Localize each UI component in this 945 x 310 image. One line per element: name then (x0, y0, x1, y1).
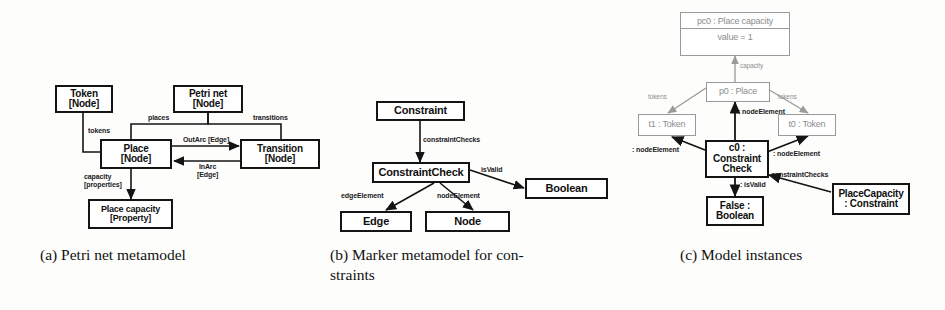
box-boolean[interactable]: Boolean (525, 178, 608, 199)
panel-petri-net-metamodel: Token [Node] Petri net [Node] Place [Nod… (0, 0, 330, 310)
caption-panel-c: (c) Model instances (680, 245, 940, 265)
caption-panel-a: (a) Petri net metamodel (40, 245, 330, 265)
edge-label-constraint-checks-c: : constraintChecks (767, 171, 828, 179)
box-p0-place-label: p0 : Place (719, 87, 757, 96)
box-t0-token[interactable]: t0 : Token (778, 114, 836, 136)
edge-label-transitions: transitions (253, 114, 288, 122)
edge-label-node-element-center: : nodeElement (738, 108, 785, 116)
caption-panel-b-line2: straints (330, 266, 375, 283)
edge-label-inarc-line1: InArc (199, 163, 216, 170)
box-token-line2: [Node] (69, 99, 99, 110)
edge-label-inarc: InArc [Edge] (197, 163, 218, 179)
box-constraint[interactable]: Constraint (376, 101, 465, 121)
box-pc0-place-capacity[interactable]: pc0 : Place capacity value = 1 (680, 12, 790, 56)
box-node-label: Node (454, 216, 481, 228)
edge-label-outarc: OutArc [Edge] (183, 136, 229, 144)
box-place-line2: [Node] (121, 154, 151, 165)
box-transition-line2: [Node] (265, 154, 295, 165)
box-boolean-label: Boolean (546, 183, 588, 195)
box-constraint-check-label: ConstraintCheck (378, 167, 463, 179)
edge-label-tokens: tokens (88, 127, 110, 135)
box-t1-token[interactable]: t1 : Token (638, 114, 696, 136)
box-pc0-value: value = 1 (681, 28, 789, 44)
edge-label-capacity-line2: [properties] (84, 181, 122, 188)
box-false-boolean[interactable]: False : Boolean (706, 196, 764, 226)
caption-panel-b-line1: (b) Marker metamodel for con- (330, 246, 524, 263)
edge-label-node-element-right: : nodeElement (773, 150, 820, 158)
box-petri-net-line2: [Node] (193, 99, 223, 110)
box-p0-place[interactable]: p0 : Place (706, 82, 770, 102)
box-place-capacity[interactable]: Place capacity [Property] (88, 199, 173, 229)
panel-marker-metamodel: Constraint ConstraintCheck Boolean Edge … (330, 0, 630, 310)
edge-label-capacity-c: capacity (740, 62, 763, 69)
edge-label-node-element: nodeElement (437, 192, 480, 200)
panel-model-instances: pc0 : Place capacity value = 1 p0 : Plac… (630, 0, 945, 310)
box-place-capacity-constraint-line2: : Constraint (844, 199, 898, 210)
box-place[interactable]: Place [Node] (100, 139, 172, 169)
edge-label-node-element-left: : nodeElement (632, 146, 679, 154)
box-pc0-title: pc0 : Place capacity (681, 13, 789, 28)
box-t0-token-label: t0 : Token (789, 120, 826, 129)
box-t1-token-label: t1 : Token (649, 120, 686, 129)
box-constraint-label: Constraint (394, 105, 447, 117)
edge-label-places: places (148, 114, 169, 122)
box-place-capacity-constraint[interactable]: PlaceCapacity : Constraint (832, 183, 910, 215)
box-transition[interactable]: Transition [Node] (240, 139, 320, 169)
box-node[interactable]: Node (425, 211, 510, 232)
box-token[interactable]: Token [Node] (55, 85, 113, 113)
edge-label-tokens-right: tokens (778, 93, 797, 100)
box-place-capacity-line2: [Property] (110, 214, 151, 223)
edge-label-is-valid-c: : isValid (740, 181, 766, 189)
box-constraint-check[interactable]: ConstraintCheck (372, 162, 470, 183)
edge-label-inarc-line2: [Edge] (197, 171, 218, 178)
box-false-line2: Boolean (716, 211, 754, 222)
edge-label-edge-element: edgeElement (341, 192, 383, 200)
figure-three-panel-diagram: Token [Node] Petri net [Node] Place [Nod… (0, 0, 945, 310)
edge-label-is-valid: isValid (481, 166, 502, 174)
edge-label-capacity-line1: capacity (84, 173, 111, 180)
box-petri-net[interactable]: Petri net [Node] (173, 85, 243, 113)
caption-panel-b: (b) Marker metamodel for con- straints (330, 245, 620, 285)
edge-label-constraint-checks: constraintChecks (423, 136, 480, 144)
edge-label-capacity: capacity [properties] (84, 173, 122, 189)
box-c0-line3: Check (722, 164, 751, 175)
box-edge-label: Edge (363, 216, 389, 228)
box-edge[interactable]: Edge (340, 211, 412, 232)
edge-label-tokens-left: tokens (648, 93, 667, 100)
box-c0-constraint-check[interactable]: c0 : Constraint Check (705, 140, 769, 178)
